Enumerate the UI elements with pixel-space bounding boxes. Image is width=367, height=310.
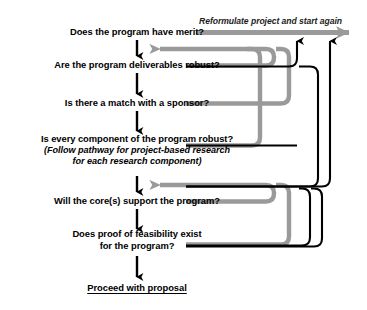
node-feasibility: Does proof of feasibility exist for the …	[0, 228, 274, 251]
node-component: Is every component of the program robust…	[0, 133, 274, 167]
node-sponsor-label: Is there a match with a sponsor?	[65, 97, 209, 108]
node-merit-label: Does the program have merit?	[70, 26, 204, 37]
node-component-note-line2: for each research component)	[0, 156, 274, 167]
node-deliverables: Are the program deliverables robust?	[0, 59, 274, 71]
node-proceed-label: Proceed with proposal	[87, 282, 187, 293]
node-merit: Does the program have merit?	[0, 26, 274, 38]
node-component-label: Is every component of the program robust…	[41, 133, 233, 144]
flowchart-diagram: Does the program have merit? Are the pro…	[0, 0, 367, 310]
node-component-note-line1: (Follow pathway for project-based resear…	[0, 145, 274, 156]
node-proceed: Proceed with proposal	[0, 282, 274, 294]
node-feasibility-label: Does proof of feasibility exist	[72, 228, 201, 239]
node-feasibility-label-line2: for the program?	[0, 240, 274, 252]
node-deliverables-label: Are the program deliverables robust?	[54, 59, 219, 70]
node-sponsor: Is there a match with a sponsor?	[0, 97, 274, 109]
riser-cores-column	[186, 67, 318, 187]
node-cores: Will the core(s) support the program?	[0, 195, 274, 207]
node-cores-label: Will the core(s) support the program?	[54, 195, 220, 206]
reformulate-caption: Reformulate project and start again	[199, 16, 342, 26]
